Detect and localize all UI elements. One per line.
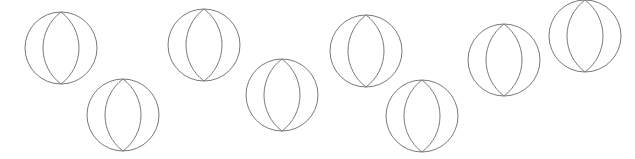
ball-seam — [105, 79, 141, 151]
ball-seam — [264, 59, 300, 131]
ball-seam — [486, 24, 522, 96]
ball-seam — [186, 9, 222, 81]
ball-outline — [168, 9, 240, 81]
ball-seam — [404, 80, 440, 152]
ball-icon — [386, 80, 458, 152]
ball-seam — [567, 0, 603, 72]
ball-seam — [43, 12, 79, 84]
ball-icon — [168, 9, 240, 81]
ball-outline — [549, 0, 621, 72]
ball-seam — [348, 15, 384, 87]
ball-outline — [468, 24, 540, 96]
ball-outline — [330, 15, 402, 87]
ball-icon — [549, 0, 621, 72]
ball-icon — [87, 79, 159, 151]
ball-icon — [468, 24, 540, 96]
ball-outline — [87, 79, 159, 151]
ball-icon — [25, 12, 97, 84]
drawing-canvas — [0, 0, 635, 159]
ball-icon — [330, 15, 402, 87]
ball-outline — [386, 80, 458, 152]
ball-outline — [25, 12, 97, 84]
ball-outline — [246, 59, 318, 131]
ball-icon — [246, 59, 318, 131]
